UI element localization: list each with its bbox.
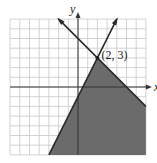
y-axis-arrow-icon: [76, 12, 81, 18]
y-axis-label: y: [69, 2, 76, 16]
x-axis-label: x: [153, 80, 157, 94]
x-axis-arrow-icon: [146, 85, 152, 90]
inequality-graph: x y (2, 3): [0, 0, 157, 163]
intersection-label: (2, 3): [101, 48, 127, 62]
intersection-point: [95, 56, 99, 60]
